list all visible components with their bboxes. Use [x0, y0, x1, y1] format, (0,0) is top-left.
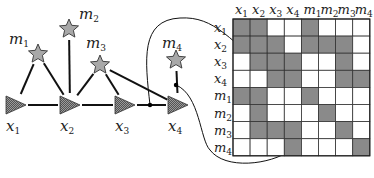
matrix-cell	[250, 19, 267, 36]
landmark-star-icon	[91, 55, 110, 73]
matrix-cell	[319, 139, 336, 156]
matrix-cell	[353, 19, 370, 36]
edge-m1-x1	[21, 64, 34, 94]
matrix-cell	[336, 36, 353, 53]
matrix-cell	[233, 139, 250, 156]
adjacency-matrix: x1x2x3x4m1m2m3m4x1x2x3x4m1m2m3m4	[214, 2, 373, 157]
matrix-cell	[284, 19, 301, 36]
matrix-cell	[319, 70, 336, 87]
node-label-m1: m1	[9, 30, 29, 49]
matrix-cell	[267, 70, 284, 87]
matrix-cell	[353, 122, 370, 139]
matrix-row-label: x4	[214, 71, 227, 88]
matrix-col-label: x1	[235, 2, 248, 19]
matrix-cell	[267, 139, 284, 156]
node-label-m3: m3	[86, 34, 106, 53]
matrix-cell	[301, 70, 318, 87]
matrix-cell	[267, 19, 284, 36]
matrix-cell	[353, 105, 370, 122]
matrix-cell	[336, 122, 353, 139]
matrix-cell	[267, 53, 284, 70]
matrix-row-label: x2	[214, 37, 227, 54]
landmark-star-icon	[29, 44, 48, 62]
node-label-x2: x2	[60, 117, 74, 136]
matrix-cell	[336, 19, 353, 36]
node-label-x4: x4	[168, 117, 182, 136]
matrix-row-label: x3	[214, 54, 227, 71]
matrix-cell	[267, 105, 284, 122]
matrix-row-label: x1	[214, 20, 227, 37]
robot-pose-node-icon	[115, 96, 135, 114]
matrix-cell	[301, 105, 318, 122]
matrix-cell	[250, 36, 267, 53]
matrix-cell	[284, 36, 301, 53]
matrix-cell	[336, 105, 353, 122]
matrix-cell	[301, 36, 318, 53]
matrix-cell	[233, 53, 250, 70]
matrix-row-label: m2	[214, 106, 232, 123]
matrix-cell	[250, 105, 267, 122]
matrix-cell	[336, 70, 353, 87]
matrix-cell	[267, 87, 284, 104]
matrix-col-label: x3	[269, 2, 282, 19]
matrix-cell	[233, 87, 250, 104]
connector-dot	[174, 83, 178, 87]
matrix-cell	[319, 53, 336, 70]
edge-m3-x3	[106, 74, 119, 94]
node-label-x1: x1	[6, 117, 20, 136]
matrix-cell	[233, 36, 250, 53]
edge-m3-x4	[110, 70, 168, 100]
matrix-cell	[284, 105, 301, 122]
matrix-cell	[319, 87, 336, 104]
matrix-cell	[336, 53, 353, 70]
matrix-cell	[319, 105, 336, 122]
matrix-cell	[336, 139, 353, 156]
matrix-cell	[250, 122, 267, 139]
matrix-cell	[284, 70, 301, 87]
matrix-cell	[319, 19, 336, 36]
matrix-cell	[250, 53, 267, 70]
matrix-cell	[250, 70, 267, 87]
matrix-cell	[284, 139, 301, 156]
node-label-x3: x3	[115, 117, 129, 136]
matrix-col-label: m1	[303, 2, 321, 19]
edge-m2-x2	[69, 40, 70, 93]
matrix-cell	[301, 139, 318, 156]
matrix-cell	[301, 19, 318, 36]
connector-dot	[148, 103, 152, 107]
robot-pose-node-icon	[6, 96, 26, 114]
matrix-row-label: m3	[214, 123, 232, 140]
matrix-cell	[319, 122, 336, 139]
matrix-cell	[267, 122, 284, 139]
matrix-row-label: m1	[214, 88, 232, 105]
edge-m3-x2	[77, 74, 93, 96]
matrix-cell	[284, 122, 301, 139]
matrix-cell	[353, 87, 370, 104]
matrix-cell	[301, 122, 318, 139]
matrix-cell	[250, 139, 267, 156]
matrix-cell	[284, 87, 301, 104]
matrix-cell	[301, 87, 318, 104]
matrix-cell	[353, 70, 370, 87]
matrix-cell	[301, 53, 318, 70]
matrix-row-label: m4	[214, 140, 232, 157]
matrix-col-label: x4	[286, 2, 299, 19]
matrix-col-label: x2	[252, 2, 265, 19]
matrix-cell	[336, 87, 353, 104]
matrix-cell	[250, 87, 267, 104]
matrix-cell	[233, 19, 250, 36]
matrix-cell	[319, 36, 336, 53]
node-label-m4: m4	[162, 34, 182, 53]
robot-pose-node-icon	[60, 96, 80, 114]
matrix-col-label: m3	[338, 2, 356, 19]
robot-pose-node-icon	[168, 96, 188, 114]
landmark-star-icon	[60, 19, 79, 37]
matrix-cell	[233, 70, 250, 87]
matrix-cell	[353, 53, 370, 70]
matrix-cell	[353, 36, 370, 53]
matrix-cell	[233, 122, 250, 139]
matrix-cell	[353, 139, 370, 156]
node-label-m2: m2	[79, 5, 99, 24]
matrix-col-label: m2	[321, 2, 339, 19]
edge-m1-x2	[44, 63, 64, 95]
